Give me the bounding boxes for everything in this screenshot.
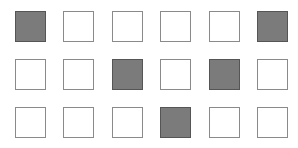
canvas [0, 0, 298, 148]
grid-cell-r3-c5-empty[interactable] [209, 107, 240, 138]
grid-cell-r1-c5-empty[interactable] [209, 11, 240, 42]
grid-cell-r2-c4-empty[interactable] [160, 59, 191, 90]
grid-cell-r1-c6-filled[interactable] [257, 11, 288, 42]
grid-cell-r3-c2-empty[interactable] [63, 107, 94, 138]
grid-cell-r2-c2-empty[interactable] [63, 59, 94, 90]
grid-cell-r1-c1-filled[interactable] [15, 11, 46, 42]
grid-cell-r1-c4-empty[interactable] [160, 11, 191, 42]
square-grid [15, 11, 288, 138]
grid-cell-r3-c4-filled[interactable] [160, 107, 191, 138]
grid-cell-r2-c5-filled[interactable] [209, 59, 240, 90]
grid-cell-r2-c3-filled[interactable] [112, 59, 143, 90]
grid-cell-r2-c6-empty[interactable] [257, 59, 288, 90]
grid-cell-r1-c3-empty[interactable] [112, 11, 143, 42]
grid-cell-r3-c3-empty[interactable] [112, 107, 143, 138]
grid-cell-r2-c1-empty[interactable] [15, 59, 46, 90]
grid-cell-r3-c1-empty[interactable] [15, 107, 46, 138]
grid-cell-r3-c6-empty[interactable] [257, 107, 288, 138]
grid-cell-r1-c2-empty[interactable] [63, 11, 94, 42]
